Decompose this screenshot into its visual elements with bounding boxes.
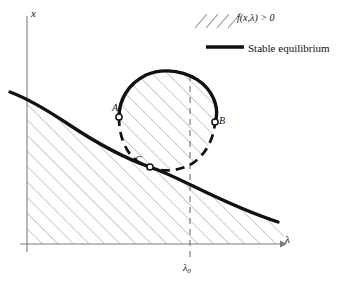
point-b-marker [212,119,218,125]
point-a-label: A [112,103,118,113]
axis-y-label: x [31,8,36,19]
legend-line-label: Stable equilibrium [248,43,330,54]
legend-hatch-swatch-icon [195,14,240,28]
axis-x-label: λ [285,234,290,245]
point-c-marker [147,164,153,170]
point-c-label: C [135,155,142,165]
lambda0-label: λ0 [183,263,191,275]
legend-hatch-label: f(x,λ) > 0 [237,13,274,23]
lambda0-subscript: 0 [187,267,191,275]
point-b-label: B [219,116,225,126]
point-a-marker [116,114,122,120]
